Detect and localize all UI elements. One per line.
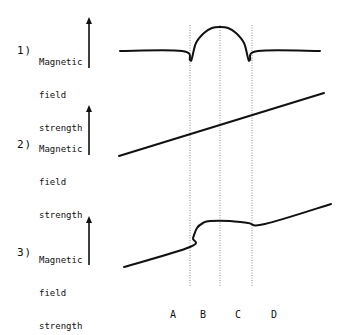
panel-2-field-curve: [119, 93, 324, 156]
panel-3-number: 3): [17, 246, 32, 259]
panel-1-number: 1): [17, 44, 32, 57]
region-label-c: C: [235, 309, 241, 320]
panel-2-number: 2): [17, 138, 32, 151]
panel-2-axis-arrow-icon: [86, 105, 92, 155]
panel-3-ylabel-line-3: strength: [39, 321, 82, 332]
region-dividers: [190, 25, 252, 287]
panel-3-ylabel: Magnetic field strength: [39, 233, 82, 335]
panel-2-ylabel-line-1: Magnetic: [39, 144, 82, 155]
region-label-b: B: [200, 309, 206, 320]
region-label-a: A: [170, 309, 176, 320]
panel-1-ylabel-line-2: field: [39, 90, 82, 101]
region-label-d: D: [271, 309, 277, 320]
panel-1-ylabel-line-1: Magnetic: [39, 57, 82, 68]
panel-3-field-curve: [124, 204, 331, 267]
panel-2-ylabel: Magnetic field strength: [39, 122, 82, 243]
panel-1-axis-arrow-icon: [86, 17, 92, 68]
panel-3-ylabel-line-2: field: [39, 288, 82, 299]
panel-2-ylabel-line-2: field: [39, 177, 82, 188]
panel-3-axis-arrow-icon: [86, 216, 92, 265]
panel-2-ylabel-line-3: strength: [39, 210, 82, 221]
panel-3-ylabel-line-1: Magnetic: [39, 255, 82, 266]
